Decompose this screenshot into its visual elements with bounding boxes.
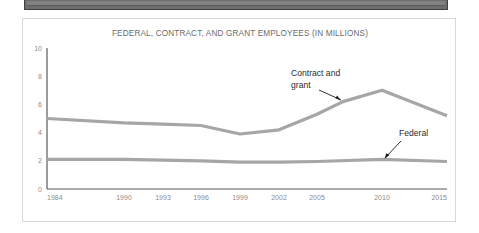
toolbar-fragment-inner bbox=[27, 1, 445, 6]
annotation-contract-grant-arrowhead bbox=[336, 96, 342, 101]
y-tick-label-4: 4 bbox=[38, 129, 42, 136]
line-chart-plot: 10 8 6 4 2 0 1984 1990 1993 1996 1999 20… bbox=[23, 19, 457, 223]
y-tick-label-2: 2 bbox=[38, 157, 42, 164]
x-tick-label-1996: 1996 bbox=[193, 194, 209, 201]
y-tick-label-10: 10 bbox=[34, 45, 42, 52]
x-tick-label-1999: 1999 bbox=[232, 194, 248, 201]
x-tick-label-2010: 2010 bbox=[374, 194, 390, 201]
annotation-federal-label: Federal bbox=[399, 128, 428, 138]
annotation-contract-grant-line2: grant bbox=[291, 80, 311, 90]
y-tick-label-0: 0 bbox=[38, 186, 42, 193]
chart-figure-panel: FEDERAL, CONTRACT, AND GRANT EMPLOYEES (… bbox=[22, 18, 456, 222]
x-tick-label-1984: 1984 bbox=[47, 194, 63, 201]
series-line-contract-and-grant bbox=[47, 90, 447, 134]
cropped-toolbar-fragment bbox=[24, 0, 448, 10]
annotation-contract-grant-line1: Contract and bbox=[291, 68, 340, 78]
x-tick-label-2015: 2015 bbox=[431, 194, 447, 201]
x-tick-label-1990: 1990 bbox=[116, 194, 132, 201]
x-tick-label-1993: 1993 bbox=[155, 194, 171, 201]
y-tick-label-6: 6 bbox=[38, 101, 42, 108]
y-tick-label-8: 8 bbox=[38, 73, 42, 80]
x-tick-label-2005: 2005 bbox=[309, 194, 325, 201]
series-line-federal bbox=[47, 159, 447, 162]
x-tick-label-2002: 2002 bbox=[271, 194, 287, 201]
